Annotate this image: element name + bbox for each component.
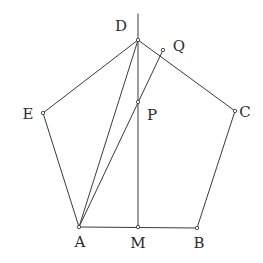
point-label-C: C bbox=[239, 105, 250, 120]
vertex-dot-Q bbox=[161, 48, 164, 51]
vertex-dot-P bbox=[136, 100, 139, 103]
cevian-lines bbox=[79, 40, 163, 227]
point-label-B: B bbox=[193, 236, 204, 251]
vertex-dot-B bbox=[195, 226, 198, 229]
pentagon-figure bbox=[0, 0, 263, 263]
vertex-dot-A bbox=[77, 225, 80, 228]
pentagon-edges bbox=[43, 40, 235, 228]
point-label-D: D bbox=[115, 19, 127, 34]
cevian-AQ bbox=[79, 50, 163, 227]
point-label-Q: Q bbox=[173, 39, 185, 54]
point-label-P: P bbox=[147, 108, 157, 123]
vertex-dot-D bbox=[136, 38, 139, 41]
side-CD bbox=[138, 40, 235, 111]
point-label-M: M bbox=[130, 236, 145, 251]
point-label-E: E bbox=[23, 107, 34, 122]
side-BC bbox=[197, 111, 235, 228]
vertex-dot-M bbox=[136, 225, 139, 228]
cevian-AD bbox=[79, 40, 138, 227]
point-label-A: A bbox=[75, 235, 86, 250]
diagram-canvas: A B C D E M P Q bbox=[0, 0, 263, 263]
vertex-dot-E bbox=[41, 111, 44, 114]
side-DE bbox=[43, 40, 138, 113]
vertex-dot-C bbox=[233, 109, 236, 112]
side-EA bbox=[43, 113, 79, 227]
